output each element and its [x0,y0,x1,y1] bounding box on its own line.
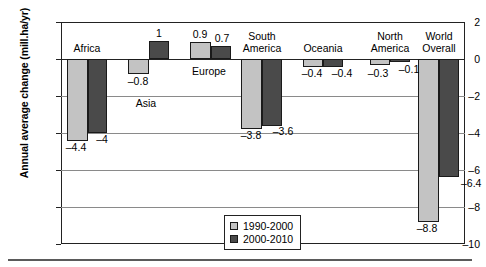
group-label-asia: Asia [115,98,177,110]
value-label-europe-2000-2010: 0.7 [208,33,236,44]
bar-north-america-1990-2000 [370,59,390,65]
value-label-oceania-2000-2010: –0.4 [322,68,362,79]
legend-swatch-icon-1990-2000 [230,222,238,230]
value-label-asia-1990-2000: –0.8 [117,76,159,87]
y-axis-label: Annual average change (mill.ha/yr) [16,0,32,203]
legend-label-1990-2000: 1990-2000 [243,221,293,232]
bar-africa-2000-2010 [88,59,107,133]
bar-europe-1990-2000 [190,42,211,59]
bar-oceania-1990-2000 [303,59,323,67]
value-label-north-america-2000-2010: –0.1 [389,64,429,75]
value-label-world-overall-2000-2010: –6.4 [437,178,486,189]
value-label-asia-2000-2010: 1 [147,28,171,39]
legend-label-2000-2010: 2000-2010 [243,234,293,245]
bar-south-america-2000-2010 [262,59,282,126]
gridline-m8 [61,207,465,208]
y-axis-label-wrapper: Annual average change (mill.ha/yr) [16,0,32,203]
bar-asia-2000-2010 [149,41,169,59]
bar-world-overall-1990-2000 [418,59,439,222]
bottom-divider [8,259,472,261]
bar-africa-1990-2000 [67,59,88,141]
value-label-africa-2000-2010: –4 [86,134,118,145]
legend: 1990-2000 2000-2010 [224,215,301,250]
group-label-south-america: South America [230,31,294,54]
bar-oceania-2000-2010 [323,59,343,67]
group-label-world-overall: World Overall [407,31,471,54]
bar-south-america-1990-2000 [241,59,262,129]
bar-world-overall-2000-2010 [439,59,459,177]
y-tick-mark-m10 [56,244,61,245]
value-label-world-overall-1990-2000: –8.8 [406,223,448,234]
value-label-south-america-2000-2010: –3.6 [263,126,303,137]
legend-item-1990-2000[interactable]: 1990-2000 [230,220,293,232]
gridline-m6 [61,170,465,171]
group-label-oceania: Oceania [292,43,354,55]
legend-item-2000-2010[interactable]: 2000-2010 [230,233,293,245]
bar-asia-1990-2000 [128,59,149,74]
group-label-africa: Africa [56,43,118,55]
bar-north-america-2000-2010 [390,59,410,62]
bar-europe-2000-2010 [211,46,231,59]
legend-swatch-icon-2000-2010 [230,235,238,243]
group-label-europe: Europe [178,66,240,78]
